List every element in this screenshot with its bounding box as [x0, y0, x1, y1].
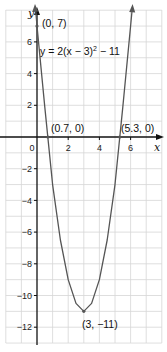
equation-label: y = 2(x − 3)2 − 11 [40, 45, 120, 57]
equation-main: y = 2(x − 3) [40, 45, 93, 57]
point-root-left [46, 135, 49, 138]
parabola-chart: 0 2 4 6 6 4 2 −2 −4 −6 −8 −10 −12 y x (0… [0, 0, 167, 352]
y-tick-neg2: −2 [22, 164, 32, 174]
y-tick-neg12: −12 [17, 322, 32, 332]
x-axis-label: x [154, 141, 161, 154]
label-root-left: (0.7, 0) [51, 122, 84, 134]
x-axis-arrow-icon [156, 134, 164, 140]
x-tick-6: 6 [128, 143, 133, 153]
y-tick-neg8: −8 [22, 259, 32, 269]
label-y-intercept: (0, 7) [42, 17, 67, 29]
equation-tail: − 11 [97, 45, 120, 57]
y-tick-neg6: −6 [22, 227, 32, 237]
y-tick-neg4: −4 [22, 196, 32, 206]
point-root-right [118, 135, 121, 138]
x-tick-4: 4 [97, 143, 102, 153]
x-tick-2: 2 [66, 143, 71, 153]
y-tick-6: 6 [27, 37, 32, 47]
y-tick-4: 4 [27, 69, 32, 79]
label-vertex: (3, −11) [82, 318, 118, 330]
y-tick-neg10: −10 [17, 291, 32, 301]
point-y-intercept [35, 24, 38, 27]
point-vertex [82, 310, 85, 313]
label-root-right: (5.3, 0) [121, 122, 154, 134]
x-tick-0: 0 [29, 143, 34, 153]
y-tick-2: 2 [27, 100, 32, 110]
curve-arrow-right-icon [129, 4, 135, 13]
